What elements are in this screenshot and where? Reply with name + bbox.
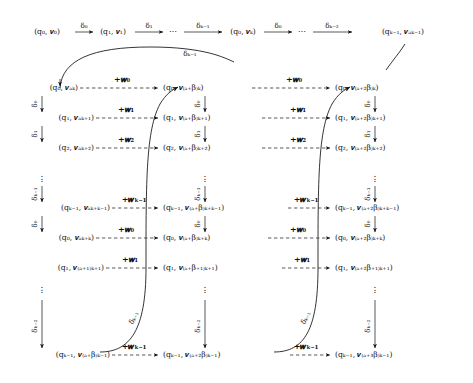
wlabel-2-r7: +𝒘ₖ₋₁ [294, 341, 319, 352]
col2-row-2: (q₂, 𝒗₍ₐ₊β₎ₖ₊₂) [163, 144, 211, 152]
col3-vlabel-1: δ₁ [364, 130, 372, 137]
top-arrow-label-2: δₖ₋₁ [196, 22, 209, 30]
wlabel-1-r7: +𝒘ₖ₋₁ [122, 341, 147, 352]
col1-row-4: (q₀, 𝒗ₐₖ₊ₖ) [59, 234, 94, 242]
col2-vlabel-1: δ₁ [194, 130, 202, 137]
big-curve-2 [274, 87, 350, 352]
col3-row-5: (q₁, 𝒗₍ₐ₊₂β₊₁₎ₖ₊₁) [335, 264, 393, 272]
col3-vdots-1: ... [374, 284, 377, 292]
top-node-2: (q₀, 𝒗ₖ) [230, 28, 255, 36]
col2-vdots-1: ... [204, 284, 207, 292]
wlabel-1-r2: +𝒘₁ [118, 104, 134, 115]
col3-row-2: (q₂, 𝒗₍ₐ₊₂β₎ₖ₊₂) [335, 144, 386, 152]
wlabel-1-r6: +𝒘₁ [122, 254, 138, 265]
top-arrow-label-1: δ₁ [145, 22, 152, 30]
col3-vdots-0: ... [374, 173, 377, 181]
wlabel-2-r1: +𝒘₀ [286, 74, 302, 85]
col2-row-4: (q₀, 𝒗₍ₐ₊β₎ₖ₊ₖ) [163, 234, 210, 242]
col2-vlabel-4: δₖ₋₂ [194, 319, 202, 332]
col2-vlabel-0: δ₀ [194, 100, 202, 107]
col1-row-0: (q₀, 𝒗ₐₖ) [50, 84, 78, 92]
top-arrow-label-4: δₖ₋₂ [325, 22, 338, 30]
wlabel-2-r3: +𝒘₂ [290, 134, 306, 145]
diagram-arrows-layer [0, 0, 473, 383]
col1-vlabel-1: δ₁ [31, 130, 39, 137]
col1-vlabel-2: δₖ₋₁ [31, 187, 39, 200]
top-node-3: (qₖ₋₁, 𝒗ₐₖ₋₁) [382, 28, 424, 36]
top-curve-label: δₖ₋₁ [183, 50, 196, 58]
col1-row-3: (qₖ₋₁, 𝒗ₐₖ₊ₖ₋₁) [61, 204, 110, 212]
col2-row-5: (q₁, 𝒗₍ₐ₊β₊₁₎ₖ₊₁) [163, 264, 218, 272]
wlabel-1-r4: +𝒘ₖ₋₁ [122, 194, 147, 205]
col1-row-2: (q₂, 𝒗ₐₖ₊₂) [59, 144, 94, 152]
col3-vlabel-4: δₖ₋₂ [364, 319, 372, 332]
col2-row-0: (q₀, 𝒗₍ₐ₊β₎ₖ) [163, 84, 204, 92]
col2-vlabel-3: δ₀ [194, 220, 202, 227]
col2-row-3: (qₖ₋₁, 𝒗₍ₐ₊β₎ₖ₊ₖ₋₁) [163, 204, 224, 212]
wlabel-2-r2: +𝒘₁ [290, 104, 306, 115]
wlabel-2-r4: +𝒘ₖ₋₁ [294, 194, 319, 205]
col3-vlabel-3: δ₀ [364, 220, 372, 227]
col1-vlabel-0: δ₀ [31, 100, 39, 107]
col3-row-3: (qₖ₋₁, 𝒗₍ₐ₊₂β₎ₖ₊ₖ₋₁) [335, 204, 399, 212]
col1-row-5: (q₁, 𝒗₍ₐ₊₁₎ₖ₊₁) [58, 264, 104, 272]
col1-vdots-0: ... [41, 173, 44, 181]
top-node-1: (q₁, 𝒗₁) [100, 28, 126, 36]
wlabel-1-r5: +𝒘₀ [118, 224, 134, 235]
col1-vdots-1: ... [41, 284, 44, 292]
top-curve-right [386, 44, 405, 70]
col1-row-6: (qₖ₋₁, 𝒗₍ₐ₊β₎ₖ₋₁) [56, 351, 110, 359]
top-hdots-2: ⋯ [298, 28, 306, 36]
diagram-canvas: (q₀, 𝒗₀) (q₁, 𝒗₁) ⋯ (q₀, 𝒗ₖ) ⋯ (qₖ₋₁, 𝒗ₐ… [0, 0, 473, 383]
col1-vlabel-4: δₖ₋₂ [31, 319, 39, 332]
top-node-0: (q₀, 𝒗₀) [34, 28, 60, 36]
wlabel-2-r6: +𝒘₁ [294, 254, 310, 265]
top-hdots-1: ⋯ [169, 28, 177, 36]
col1-row-1: (q₁, 𝒗ₐₖ₊₁) [59, 114, 94, 122]
col3-row-6: (qₖ₋₁, 𝒗₍ₐ₊₃β₎ₖ₋₁) [335, 351, 392, 359]
wlabel-2-r5: +𝒘₀ [290, 224, 306, 235]
col2-vdots-0: ... [204, 173, 207, 181]
top-arrow-label-0: δ₀ [80, 22, 87, 30]
col2-row-1: (q₁, 𝒗₍ₐ₊β₎ₖ₊₁) [163, 114, 211, 122]
top-arrow-label-3: δ₀ [274, 22, 281, 30]
col2-vlabel-2: δₖ₋₁ [194, 187, 202, 200]
col3-vlabel-0: δ₀ [364, 100, 372, 107]
wlabel-1-r1: +𝒘₀ [114, 74, 130, 85]
col3-row-1: (q₁, 𝒗₍ₐ₊₂β₎ₖ₊₁) [335, 114, 386, 122]
col3-vlabel-2: δₖ₋₁ [364, 187, 372, 200]
wlabel-1-r3: +𝒘₂ [118, 134, 134, 145]
col3-row-4: (q₀, 𝒗₍ₐ₊₂β₎ₖ₊ₖ) [335, 234, 385, 242]
col1-vlabel-3: δ₀ [31, 220, 39, 227]
col3-row-0: (q₀, 𝒗₍ₐ₊₂β₎ₖ) [335, 84, 379, 92]
col2-row-6: (qₖ₋₁, 𝒗₍ₐ₊₂β₎ₖ₋₁) [163, 351, 220, 359]
top-curve-left [60, 47, 234, 88]
